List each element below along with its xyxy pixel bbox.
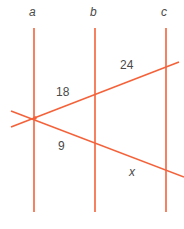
- segment-label-24: 24: [120, 59, 134, 71]
- figure-canvas: [0, 0, 184, 229]
- geometry-figure: a b c 18 24 9 x: [0, 0, 184, 229]
- lower-transversal-stroke: [11, 111, 184, 177]
- vertex-point: [33, 116, 37, 120]
- segment-label-9: 9: [58, 140, 65, 152]
- line-label-b: b: [90, 6, 97, 18]
- line-label-a: a: [29, 6, 36, 18]
- segment-label-18: 18: [56, 86, 70, 98]
- line-label-c: c: [161, 6, 167, 18]
- segment-label-x: x: [129, 166, 135, 178]
